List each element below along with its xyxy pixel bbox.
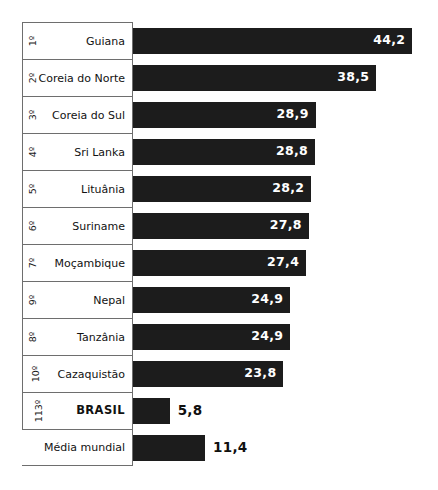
bar-cell: 28,2 bbox=[133, 170, 416, 207]
country-label: Tanzânia bbox=[77, 332, 132, 343]
rank-label: 10º bbox=[31, 366, 41, 383]
bar-value-label: 28,2 bbox=[272, 182, 311, 195]
row-label-cell: 8ºTanzânia bbox=[22, 318, 133, 355]
bar: 44,2 bbox=[133, 28, 412, 54]
country-label: Suriname bbox=[72, 221, 132, 232]
bar-value-label: 11,4 bbox=[205, 441, 248, 455]
bar bbox=[133, 398, 170, 424]
table-row: 4ºSri Lanka28,8 bbox=[22, 133, 416, 170]
bar-value-label: 27,8 bbox=[270, 219, 309, 232]
bar-cell: 27,4 bbox=[133, 244, 416, 281]
country-label: Nepal bbox=[93, 295, 132, 306]
chart-rows: 1ºGuiana44,22ºCoreia do Norte38,53ºCorei… bbox=[22, 22, 416, 466]
bar: 24,9 bbox=[133, 287, 290, 313]
bar-cell: 24,9 bbox=[133, 318, 416, 355]
bar-value-label: 5,8 bbox=[170, 404, 203, 418]
country-label: Coreia do Sul bbox=[52, 110, 132, 121]
row-label-cell: 113ºBRASIL bbox=[22, 392, 133, 429]
bar-value-label: 38,5 bbox=[337, 71, 376, 84]
row-label-cell: Média mundial bbox=[22, 429, 133, 466]
rank-label: 9º bbox=[28, 295, 38, 306]
bar: 27,8 bbox=[133, 213, 309, 239]
bar: 23,8 bbox=[133, 361, 283, 387]
row-label-cell: 9ºNepal bbox=[22, 281, 133, 318]
bar-value-label: 24,9 bbox=[251, 293, 290, 306]
rank-label: 4º bbox=[28, 147, 38, 158]
rank-label: 1º bbox=[28, 36, 38, 47]
table-row: 113ºBRASIL5,8 bbox=[22, 392, 416, 429]
table-row: 10ºCazaquistão23,8 bbox=[22, 355, 416, 392]
country-label: Lituânia bbox=[81, 184, 132, 195]
table-row: 8ºTanzânia24,9 bbox=[22, 318, 416, 355]
bar-value-label: 23,8 bbox=[244, 367, 283, 380]
rank-label: 5º bbox=[28, 184, 38, 195]
row-label-cell: 1ºGuiana bbox=[22, 22, 133, 59]
rank-label: 3º bbox=[28, 110, 38, 121]
bar-chart: 1ºGuiana44,22ºCoreia do Norte38,53ºCorei… bbox=[0, 0, 438, 490]
bar-cell: 28,9 bbox=[133, 96, 416, 133]
bar-value-label: 28,8 bbox=[276, 145, 315, 158]
country-label: Sri Lanka bbox=[74, 147, 132, 158]
bar-value-label: 28,9 bbox=[277, 108, 316, 121]
row-label-cell: 7ºMoçambique bbox=[22, 244, 133, 281]
country-label: Coreia do Norte bbox=[38, 73, 132, 84]
row-label-cell: 3ºCoreia do Sul bbox=[22, 96, 133, 133]
bar-value-label: 27,4 bbox=[267, 256, 306, 269]
bar: 28,8 bbox=[133, 139, 315, 165]
row-label-cell: 4ºSri Lanka bbox=[22, 133, 133, 170]
rank-label: 6º bbox=[28, 221, 38, 232]
row-label-cell: 2ºCoreia do Norte bbox=[22, 59, 133, 96]
bar: 24,9 bbox=[133, 324, 290, 350]
bar: 28,9 bbox=[133, 102, 316, 128]
bar-cell: 24,9 bbox=[133, 281, 416, 318]
table-row: 2ºCoreia do Norte38,5 bbox=[22, 59, 416, 96]
rank-label: 7º bbox=[28, 258, 38, 269]
bar-value-label: 24,9 bbox=[251, 330, 290, 343]
row-label-cell: 5ºLituânia bbox=[22, 170, 133, 207]
bar-cell: 44,2 bbox=[133, 22, 416, 59]
bar-value-label: 44,2 bbox=[373, 34, 412, 47]
country-label: Moçambique bbox=[55, 258, 133, 269]
table-row: 5ºLituânia28,2 bbox=[22, 170, 416, 207]
bar-cell: 27,8 bbox=[133, 207, 416, 244]
row-label-cell: 10ºCazaquistão bbox=[22, 355, 133, 392]
country-label: Cazaquistão bbox=[58, 369, 132, 380]
bar-cell: 5,8 bbox=[133, 392, 416, 429]
country-label: Média mundial bbox=[44, 442, 132, 453]
country-label: Guiana bbox=[86, 36, 132, 47]
table-row: 6ºSuriname27,8 bbox=[22, 207, 416, 244]
bar-cell: 38,5 bbox=[133, 59, 416, 96]
bar: 38,5 bbox=[133, 65, 376, 91]
table-row: Média mundial11,4 bbox=[22, 429, 416, 466]
bar-cell: 28,8 bbox=[133, 133, 416, 170]
table-row: 1ºGuiana44,2 bbox=[22, 22, 416, 59]
table-row: 9ºNepal24,9 bbox=[22, 281, 416, 318]
rank-label: 113º bbox=[34, 400, 44, 423]
bar-cell: 23,8 bbox=[133, 355, 416, 392]
bar bbox=[133, 435, 205, 461]
rank-label: 2º bbox=[28, 73, 38, 84]
row-label-cell: 6ºSuriname bbox=[22, 207, 133, 244]
table-row: 3ºCoreia do Sul28,9 bbox=[22, 96, 416, 133]
bar-cell: 11,4 bbox=[133, 429, 416, 466]
bar: 28,2 bbox=[133, 176, 311, 202]
bar: 27,4 bbox=[133, 250, 306, 276]
country-label: BRASIL bbox=[76, 405, 132, 417]
rank-label: 8º bbox=[28, 332, 38, 343]
table-row: 7ºMoçambique27,4 bbox=[22, 244, 416, 281]
